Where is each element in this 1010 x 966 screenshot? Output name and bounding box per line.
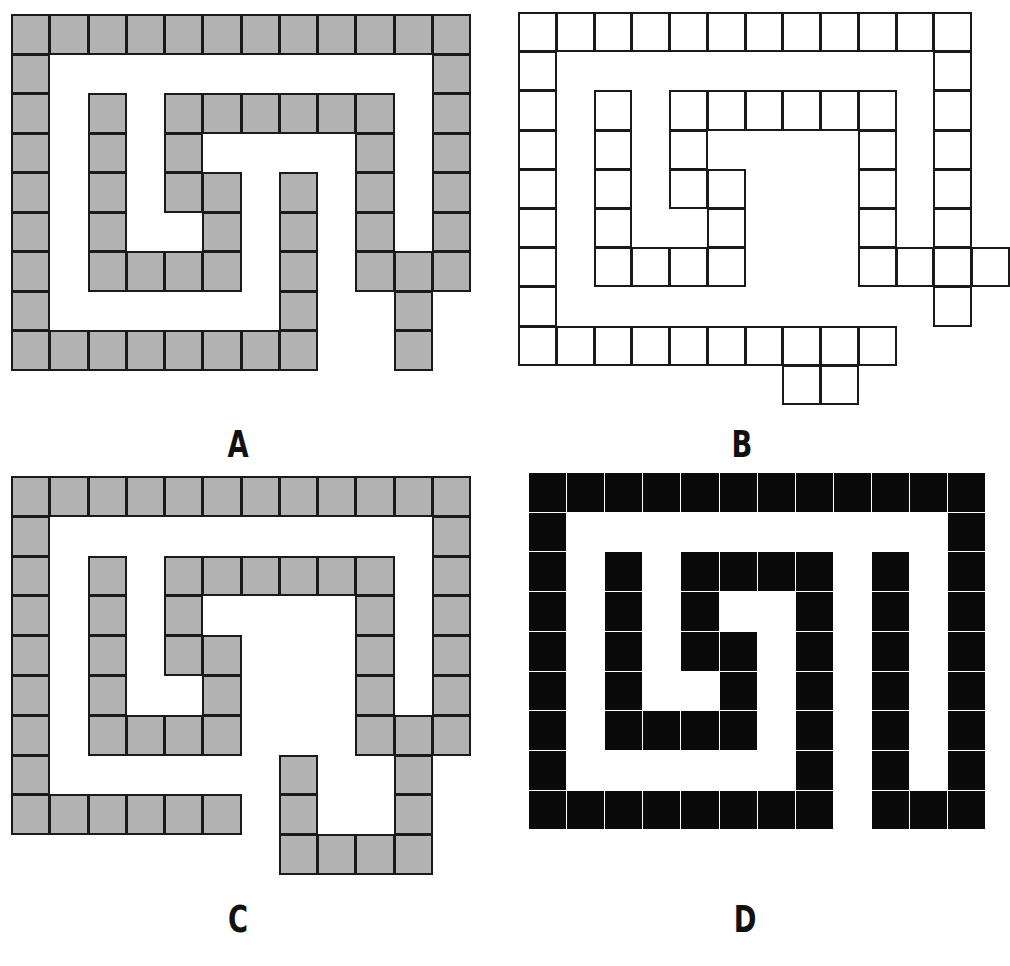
grid-cell xyxy=(88,212,127,252)
grid-cell xyxy=(719,551,758,592)
grid-cell xyxy=(202,675,242,716)
grid-cell xyxy=(707,326,746,366)
grid-cell xyxy=(518,51,557,91)
grid-cell xyxy=(202,93,242,134)
grid-cell xyxy=(88,675,127,716)
grid-cell xyxy=(669,247,708,287)
grid-cell xyxy=(11,675,50,716)
grid-cell xyxy=(126,14,165,55)
grid-cell xyxy=(317,556,356,596)
grid-cell xyxy=(394,715,433,756)
grid-cell xyxy=(642,472,681,513)
grid-cell xyxy=(432,595,471,636)
grid-cell xyxy=(394,14,433,55)
grid-cell xyxy=(707,90,746,131)
grid-cell xyxy=(528,512,567,552)
grid-cell xyxy=(88,794,127,835)
grid-cell xyxy=(933,286,972,327)
figure-a-label: A xyxy=(216,425,259,463)
grid-cell xyxy=(604,671,643,711)
grid-cell xyxy=(126,251,165,292)
grid-cell xyxy=(202,715,242,756)
grid-cell xyxy=(833,472,872,513)
grid-cell xyxy=(631,247,670,287)
grid-cell xyxy=(279,755,318,795)
grid-cell xyxy=(317,14,356,55)
grid-cell xyxy=(594,90,632,131)
grid-cell xyxy=(933,169,972,209)
grid-cell xyxy=(11,595,50,636)
grid-cell xyxy=(858,90,897,131)
grid-cell xyxy=(88,133,127,173)
grid-cell xyxy=(680,710,720,751)
grid-cell xyxy=(49,14,89,55)
grid-cell xyxy=(11,54,50,94)
grid-cell xyxy=(164,794,203,835)
grid-cell xyxy=(795,671,834,711)
grid-cell xyxy=(642,710,681,751)
grid-cell xyxy=(202,212,242,252)
grid-cell xyxy=(795,750,834,791)
grid-cell xyxy=(933,12,972,52)
grid-cell xyxy=(164,330,203,371)
grid-cell xyxy=(202,794,242,835)
grid-cell xyxy=(707,208,746,248)
grid-cell xyxy=(49,476,89,517)
grid-cell xyxy=(782,12,821,52)
grid-cell xyxy=(279,251,318,292)
grid-cell xyxy=(669,90,708,131)
grid-cell xyxy=(896,12,934,52)
grid-cell xyxy=(432,516,471,557)
grid-cell xyxy=(11,794,50,835)
grid-cell xyxy=(947,472,986,513)
grid-cell xyxy=(594,169,632,209)
grid-cell xyxy=(355,556,395,596)
grid-cell xyxy=(11,330,50,371)
grid-cell xyxy=(947,512,986,552)
grid-cell xyxy=(947,591,986,632)
grid-cell xyxy=(164,635,203,676)
grid-cell xyxy=(126,715,165,756)
grid-cell xyxy=(757,551,796,592)
grid-cell xyxy=(604,790,643,830)
grid-cell xyxy=(88,14,127,55)
grid-cell xyxy=(355,133,395,173)
grid-cell xyxy=(820,365,859,405)
grid-cell xyxy=(202,330,242,371)
grid-cell xyxy=(947,750,986,791)
grid-cell xyxy=(933,130,972,170)
grid-cell xyxy=(88,251,127,292)
grid-cell xyxy=(11,635,50,676)
figure-c-label: C xyxy=(216,900,259,938)
grid-cell xyxy=(745,12,783,52)
grid-cell xyxy=(528,551,567,592)
grid-cell xyxy=(719,472,758,513)
grid-cell xyxy=(947,671,986,711)
grid-cell xyxy=(528,591,567,632)
grid-cell xyxy=(971,247,1010,287)
grid-cell xyxy=(604,551,643,592)
grid-cell xyxy=(355,212,395,252)
grid-cell xyxy=(858,130,897,170)
grid-cell xyxy=(566,790,605,830)
grid-cell xyxy=(432,172,471,213)
grid-cell xyxy=(556,12,595,52)
grid-cell xyxy=(719,671,758,711)
grid-cell xyxy=(745,90,783,131)
grid-cell xyxy=(394,755,433,795)
grid-cell xyxy=(355,14,395,55)
grid-cell xyxy=(820,90,859,131)
grid-cell xyxy=(871,472,910,513)
grid-cell xyxy=(719,631,758,672)
grid-cell xyxy=(518,90,557,131)
grid-cell xyxy=(279,330,318,371)
grid-cell xyxy=(871,551,910,592)
grid-cell xyxy=(11,14,50,55)
grid-cell xyxy=(820,326,859,366)
grid-cell xyxy=(669,326,708,366)
grid-cell xyxy=(164,476,203,517)
grid-cell xyxy=(518,130,557,170)
grid-cell xyxy=(279,556,318,596)
grid-cell xyxy=(947,631,986,672)
grid-cell xyxy=(317,476,356,517)
